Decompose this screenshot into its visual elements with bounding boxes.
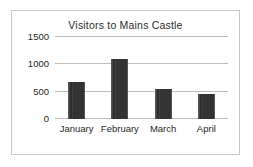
bar-april[interactable] xyxy=(198,94,215,119)
x-axis-tick-label-february: February xyxy=(98,123,141,134)
bar-series xyxy=(55,37,228,119)
bar-slot xyxy=(98,37,141,119)
chart-frame: Visitors to Mains Castle 1500 1000 500 0 xyxy=(11,10,240,155)
bar-slot xyxy=(142,37,185,119)
chart-title: Visitors to Mains Castle xyxy=(12,19,239,31)
x-axis-tick-label-january: January xyxy=(55,123,98,134)
y-axis-tick-label: 500 xyxy=(33,85,49,96)
y-axis-tick-label: 1500 xyxy=(28,31,49,42)
x-axis-tick-labels: January February March April xyxy=(55,123,228,134)
plot-area: 1500 1000 500 0 xyxy=(55,37,228,119)
bar-january[interactable] xyxy=(68,82,85,119)
bar-march[interactable] xyxy=(155,89,172,119)
y-axis-tick-label: 1000 xyxy=(28,58,49,69)
bar-february[interactable] xyxy=(111,59,128,119)
y-axis-tick-label: 0 xyxy=(44,113,49,124)
bar-slot xyxy=(55,37,98,119)
x-axis-tick-label-april: April xyxy=(185,123,228,134)
bar-slot xyxy=(185,37,228,119)
x-axis-tick-label-march: March xyxy=(142,123,185,134)
